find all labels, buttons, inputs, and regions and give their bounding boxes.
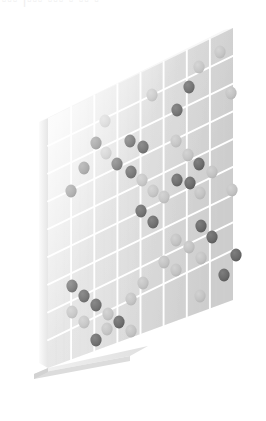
stone-light[interactable] [158, 256, 169, 269]
clipped-header-strip: ▫▫▫ |▫▫▫ ▫▫▫ ▫ ▫▫ ▫ [0, 0, 266, 9]
isometric-board-illustration [0, 0, 266, 421]
stone-dark[interactable] [125, 166, 136, 179]
stone-light[interactable] [193, 61, 204, 74]
stone-light[interactable] [194, 290, 205, 303]
stone-dark[interactable] [78, 290, 89, 303]
stone-light[interactable] [66, 306, 77, 319]
stone-light[interactable] [102, 308, 113, 321]
stone-light[interactable] [182, 149, 193, 162]
stone-light[interactable] [147, 185, 158, 198]
stone-light[interactable] [206, 166, 217, 179]
stone-dark[interactable] [171, 174, 182, 187]
stone-light[interactable] [158, 191, 169, 204]
stone-dark[interactable] [193, 158, 204, 171]
board-left-edge [39, 118, 48, 368]
stone-light[interactable] [226, 184, 237, 197]
stone-dark[interactable] [113, 316, 124, 329]
stone-dark[interactable] [124, 135, 135, 148]
stone-dark[interactable] [183, 81, 194, 94]
stone-dark[interactable] [147, 216, 158, 229]
stone-dark[interactable] [135, 205, 146, 218]
stone-dark[interactable] [90, 334, 101, 347]
stone-dark[interactable] [230, 249, 241, 262]
stone-dark[interactable] [90, 299, 101, 312]
stone-light[interactable] [170, 135, 181, 148]
stone-light[interactable] [146, 89, 157, 102]
stone-dark[interactable] [137, 141, 148, 154]
stone-light[interactable] [170, 234, 181, 247]
stone-light[interactable] [183, 241, 194, 254]
stone-dark[interactable] [171, 104, 182, 117]
stone-dark[interactable] [206, 231, 217, 244]
stone-light[interactable] [214, 46, 225, 59]
stone-light[interactable] [78, 316, 89, 329]
stone-dark[interactable] [66, 280, 77, 293]
stone-light[interactable] [195, 252, 206, 265]
stone-light[interactable] [170, 264, 181, 277]
stone-light[interactable] [225, 87, 236, 100]
stone-light[interactable] [125, 293, 136, 306]
scene-canvas: ▫▫▫ |▫▫▫ ▫▫▫ ▫ ▫▫ ▫ [0, 0, 266, 421]
stone-light[interactable] [100, 147, 111, 160]
stone-light[interactable] [194, 187, 205, 200]
stone-dark[interactable] [78, 162, 89, 175]
stone-dark[interactable] [184, 177, 195, 190]
board-slab [39, 0, 242, 421]
stone-dark[interactable] [195, 220, 206, 233]
clipped-header-text: ▫▫▫ |▫▫▫ ▫▫▫ ▫ ▫▫ ▫ [2, 0, 100, 7]
stone-light[interactable] [99, 115, 110, 128]
stone-light[interactable] [125, 325, 136, 338]
stone-dark[interactable] [90, 137, 101, 150]
stone-dark[interactable] [218, 269, 229, 282]
stone-dark[interactable] [111, 158, 122, 171]
stone-light[interactable] [101, 323, 112, 336]
stone-dark[interactable] [65, 185, 76, 198]
stone-light[interactable] [136, 174, 147, 187]
stone-light[interactable] [137, 277, 148, 290]
